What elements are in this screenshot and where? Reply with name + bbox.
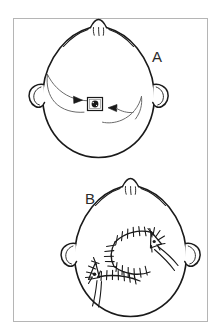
suture-junction-right-knot [153, 240, 156, 243]
nose-detail-line-2 [99, 28, 100, 36]
panel-a-label: A [152, 48, 162, 65]
lesion-highlight-1 [92, 102, 94, 104]
figure-illustration: A [0, 0, 220, 333]
panel-b-label: B [85, 190, 95, 207]
nose-detail-line-2 [131, 187, 132, 195]
lesion-core [92, 101, 99, 108]
lesion-highlight-2 [96, 105, 97, 106]
figure-root: A [0, 0, 220, 333]
